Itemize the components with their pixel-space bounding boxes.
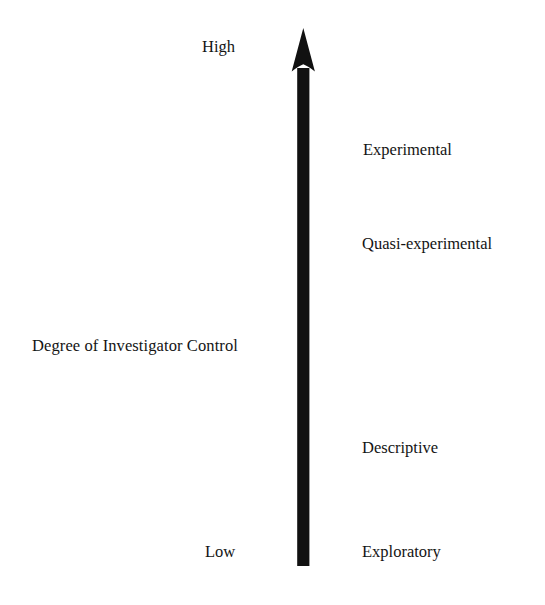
axis-low-label: Low [205,544,235,561]
tier-label-experimental: Experimental [363,142,452,159]
tier-label-quasi-experimental: Quasi-experimental [362,236,492,253]
axis-high-label: High [202,39,235,56]
axis-title: Degree of Investigator Control [32,338,238,355]
figure-canvas: High Low Degree of Investigator Control … [0,0,545,605]
tier-label-descriptive: Descriptive [362,440,438,457]
tier-label-exploratory: Exploratory [362,544,441,561]
up-arrow-icon [283,24,327,576]
